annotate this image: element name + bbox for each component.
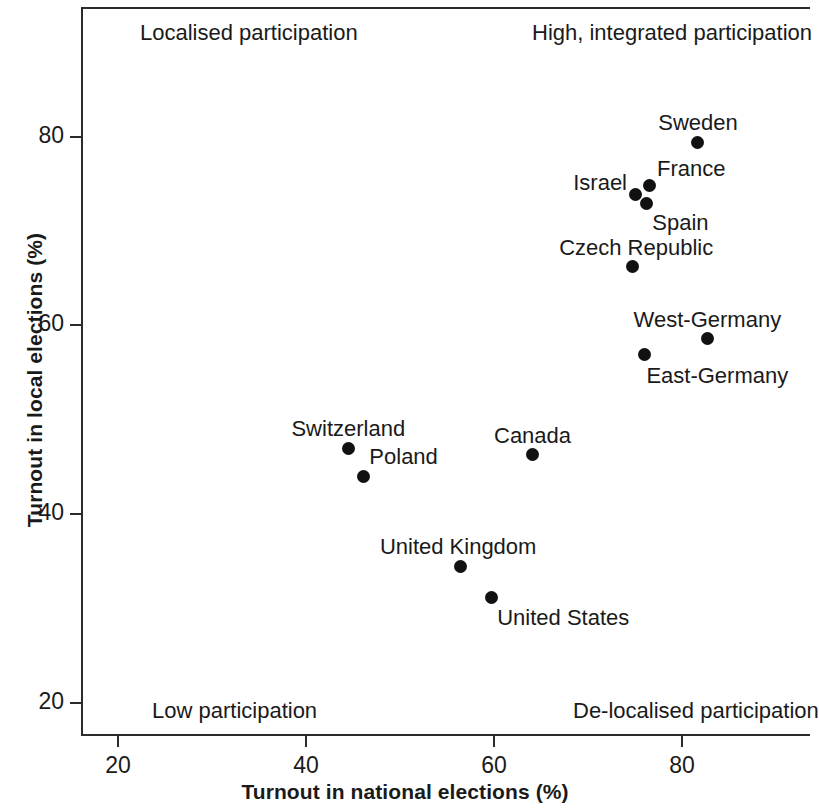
- x-tick-label: 40: [271, 752, 341, 779]
- data-point: [638, 348, 651, 361]
- y-axis-line: [81, 7, 83, 736]
- data-point-label: Sweden: [658, 110, 738, 136]
- y-tick-label: 80: [4, 122, 64, 149]
- data-point-label: West-Germany: [634, 307, 782, 333]
- quadrant-note-top-left: Localised participation: [140, 20, 358, 46]
- quadrant-note-top-right: High, integrated participation: [532, 20, 812, 46]
- data-point: [629, 188, 642, 201]
- y-axis-title: Turnout in local elections (%): [23, 155, 47, 605]
- data-point-label: Czech Republic: [559, 235, 713, 261]
- data-point: [485, 591, 498, 604]
- data-point-label: United States: [497, 605, 629, 631]
- x-tick-label: 60: [459, 752, 529, 779]
- data-point-label: France: [657, 156, 725, 182]
- data-point: [454, 560, 467, 573]
- data-point-label: United Kingdom: [380, 534, 537, 560]
- y-tick-mark: [70, 136, 81, 138]
- data-point: [691, 136, 704, 149]
- x-tick-mark: [117, 736, 119, 747]
- y-tick-mark: [70, 513, 81, 515]
- data-point: [526, 448, 539, 461]
- y-tick-mark: [70, 324, 81, 326]
- data-point-label: Canada: [494, 423, 571, 449]
- quadrant-note-bottom-left: Low participation: [152, 698, 317, 724]
- x-axis-line: [81, 734, 810, 736]
- data-point-label: Spain: [652, 210, 708, 236]
- x-tick-mark: [305, 736, 307, 747]
- y-tick-label: 20: [4, 688, 64, 715]
- data-point: [643, 179, 656, 192]
- data-point-label: Switzerland: [291, 416, 405, 442]
- y-tick-mark: [70, 702, 81, 704]
- data-point: [357, 470, 370, 483]
- quadrant-note-bottom-right: De-localised participation: [573, 698, 819, 724]
- x-tick-label: 80: [647, 752, 717, 779]
- data-point: [701, 332, 714, 345]
- data-point-label: East-Germany: [646, 363, 788, 389]
- plot-frame-top: [81, 7, 810, 9]
- x-axis-title: Turnout in national elections (%): [0, 780, 810, 804]
- data-point-label: Israel: [573, 170, 627, 196]
- data-point: [640, 197, 653, 210]
- data-point: [626, 260, 639, 273]
- x-tick-mark: [681, 736, 683, 747]
- x-tick-mark: [493, 736, 495, 747]
- data-point-label: Poland: [369, 444, 438, 470]
- data-point: [342, 442, 355, 455]
- x-tick-label: 20: [83, 752, 153, 779]
